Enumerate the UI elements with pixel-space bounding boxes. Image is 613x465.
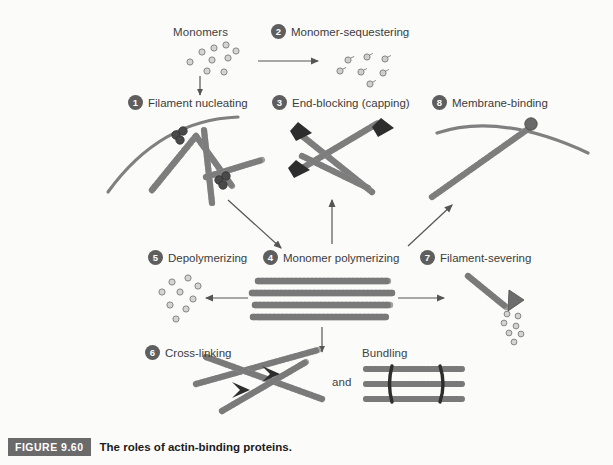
step-5-depolymerizing: 5 Depolymerizing <box>148 250 247 265</box>
step-label-1: Filament nucleating <box>148 97 248 109</box>
sequestered-monomers-cluster <box>337 53 391 87</box>
membrane-binding-protein <box>525 118 537 130</box>
step-badge-8: 8 <box>432 95 447 110</box>
step-label-5: Depolymerizing <box>168 252 247 264</box>
capping-region <box>288 118 394 192</box>
severing-region <box>468 276 524 345</box>
free-monomers-cluster <box>187 42 239 75</box>
bundling-region <box>366 366 462 402</box>
figure-caption-text: The roles of actin-binding proteins. <box>100 441 292 453</box>
step-7-filament-severing: 7 Filament-severing <box>420 250 531 265</box>
step-label-2: Monomer-sequestering <box>291 26 409 38</box>
step-badge-7: 7 <box>420 250 435 265</box>
step-3-end-blocking: 3 End-blocking (capping) <box>272 95 410 110</box>
and-connector-label: and <box>332 376 352 388</box>
step-badge-4: 4 <box>263 250 278 265</box>
actin-binding-diagram <box>0 0 613 465</box>
severing-protein <box>508 290 524 311</box>
membrane-binding-region <box>432 118 588 197</box>
step-label-7: Filament-severing <box>440 252 531 264</box>
step-label-3: End-blocking (capping) <box>292 97 410 109</box>
arrow-nucleating-to-polymerizing <box>228 200 281 248</box>
figure-number-tag: FIGURE 9.60 <box>8 438 91 456</box>
polymerizing-filaments <box>252 281 392 317</box>
monomers-label: Monomers <box>173 26 228 38</box>
step-badge-5: 5 <box>148 250 163 265</box>
step-badge-2: 2 <box>271 24 286 39</box>
figure-container: { "figure": { "tag": "FIGURE 9.60", "cap… <box>0 0 613 465</box>
step-1-filament-nucleating: 1 Filament nucleating <box>128 95 248 110</box>
step-label-8: Membrane-binding <box>452 97 548 109</box>
step-badge-1: 1 <box>128 95 143 110</box>
step-4-monomer-polymerizing: 4 Monomer polymerizing <box>263 250 399 265</box>
step-label-6: Cross-linking <box>165 347 231 359</box>
arrow-polymerizing-to-membrane <box>408 205 452 246</box>
step-6-cross-linking: 6 Cross-linking <box>145 345 231 360</box>
step-badge-6: 6 <box>145 345 160 360</box>
step-8-membrane-binding: 8 Membrane-binding <box>432 95 548 110</box>
step-2-monomer-sequestering: 2 Monomer-sequestering <box>271 24 409 39</box>
nucleation-region <box>108 117 262 203</box>
step-label-4: Monomer polymerizing <box>283 252 399 264</box>
step-badge-3: 3 <box>272 95 287 110</box>
bundling-label: Bundling <box>362 347 408 359</box>
depolymerized-monomers-cluster <box>159 275 201 322</box>
figure-caption: FIGURE 9.60 The roles of actin-binding p… <box>8 438 292 456</box>
